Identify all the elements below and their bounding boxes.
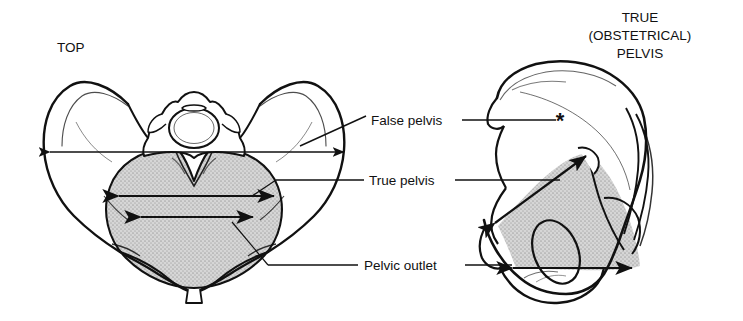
pelvis-diagram: TOP TRUE (OBSTETRICAL) PELVIS False pelv…	[0, 0, 743, 321]
lateral-inferior-ramus	[586, 268, 604, 294]
label-pelvic-outlet: Pelvic outlet	[364, 258, 437, 273]
pubic-symphysis	[186, 289, 202, 303]
lateral-view-title-line3: PELVIS	[617, 46, 663, 61]
lateral-ischial-spine	[480, 226, 502, 269]
lateral-superior-pubic-ramus	[524, 271, 558, 278]
label-false-pelvis: False pelvis	[371, 113, 443, 128]
true-pelvis-shaded-region-top	[106, 149, 282, 288]
lateral-iliac-crest-arc	[500, 71, 616, 100]
lateral-view-title-line1: TRUE	[622, 10, 659, 25]
asterisk-marker-icon: *	[556, 108, 565, 133]
vertebral-body-oval	[169, 108, 219, 148]
lateral-anterior-superior-iliac-spine	[487, 98, 504, 129]
right-iliac-fossa-line	[276, 122, 312, 162]
top-view-title: TOP	[57, 40, 85, 55]
top-view-panel	[44, 82, 345, 303]
label-true-pelvis: True pelvis	[369, 173, 435, 188]
lateral-iliac-crest-inner-arc	[512, 81, 566, 90]
left-iliac-fossa-line	[76, 122, 112, 162]
lateral-view-title-line2: (OBSTETRICAL)	[589, 28, 692, 43]
lateral-anterior-inferior-iliac-spine	[496, 126, 506, 188]
right-ilium-superior-arc	[240, 104, 260, 138]
left-ilium-superior-arc	[128, 104, 148, 138]
left-iliac-crest-inner	[62, 92, 128, 146]
spinous-process	[182, 105, 206, 111]
false-pelvis-leader-left	[300, 116, 366, 146]
true-pelvis-shaded-region-lateral	[498, 153, 640, 270]
lateral-view-panel	[480, 61, 653, 303]
